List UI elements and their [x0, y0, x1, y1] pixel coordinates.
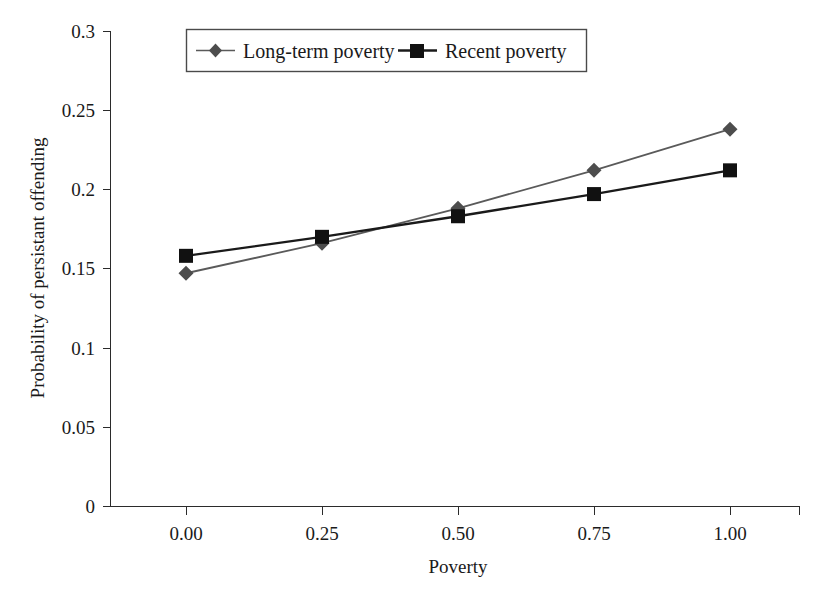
y-tick-label: 0.2	[71, 179, 95, 200]
square-marker-icon	[587, 187, 601, 201]
legend-label-long-term: Long-term poverty	[243, 40, 395, 63]
series-recent-poverty	[179, 163, 737, 262]
x-tick-label: 0.75	[577, 523, 610, 544]
x-axis-title: Poverty	[428, 556, 488, 577]
square-marker-icon	[315, 230, 329, 244]
x-tick-labels: 0.00 0.25 0.50 0.75 1.00	[169, 523, 746, 544]
line-chart: 0.3 0.25 0.2 0.15 0.1 0.05 0 0.00 0.25 0…	[0, 0, 824, 601]
chart-container: 0.3 0.25 0.2 0.15 0.1 0.05 0 0.00 0.25 0…	[0, 0, 824, 601]
data-series-layer	[179, 122, 738, 281]
diamond-marker-icon	[723, 122, 738, 137]
square-marker-icon	[723, 163, 737, 177]
legend: Long-term poverty Recent poverty	[187, 30, 587, 72]
square-marker-icon	[451, 209, 465, 223]
x-tick-label: 1.00	[713, 523, 746, 544]
y-axis-title: Probability of persistant offending	[27, 137, 48, 398]
x-tick-label: 0.25	[305, 523, 338, 544]
y-tick-label: 0.25	[62, 100, 95, 121]
x-tick-marks	[187, 506, 800, 515]
y-tick-label: 0.1	[71, 338, 95, 359]
diamond-marker-icon	[587, 163, 602, 178]
y-tick-label: 0	[86, 496, 96, 517]
x-tick-label: 0.50	[441, 523, 474, 544]
square-marker-icon	[410, 44, 424, 58]
y-tick-marks	[103, 32, 110, 507]
y-tick-labels: 0.3 0.25 0.2 0.15 0.1 0.05 0	[62, 21, 95, 517]
x-tick-label: 0.00	[169, 523, 202, 544]
y-tick-label: 0.15	[62, 258, 95, 279]
square-marker-icon	[179, 249, 193, 263]
y-tick-label: 0.05	[62, 417, 95, 438]
legend-label-recent: Recent poverty	[445, 40, 567, 63]
diamond-marker-icon	[179, 266, 194, 281]
y-tick-label: 0.3	[71, 21, 95, 42]
series-long-term-poverty	[179, 122, 738, 281]
